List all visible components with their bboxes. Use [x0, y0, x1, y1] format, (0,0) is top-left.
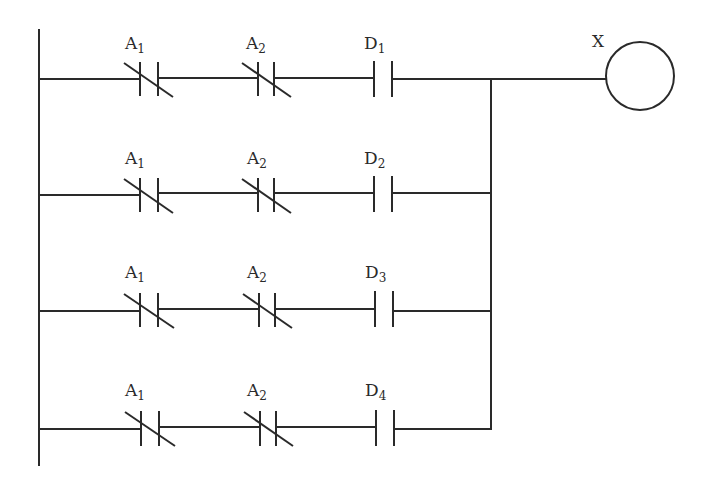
ladder-diagram [0, 0, 710, 486]
contact-label: A1 [125, 150, 145, 167]
contact-label: A2 [247, 150, 267, 167]
contact-label: D3 [365, 264, 386, 281]
rung-2 [39, 176, 491, 213]
rung-3 [39, 291, 491, 328]
rung-4 [39, 410, 491, 446]
contact-label: D1 [364, 35, 385, 52]
contact-label: A1 [125, 382, 145, 399]
coil-label: X [592, 33, 604, 50]
contact-label: A2 [246, 35, 266, 52]
contact-label: A1 [125, 35, 145, 52]
contact-label: D2 [364, 150, 385, 167]
contact-label: D4 [365, 382, 386, 399]
contact-label: A2 [247, 264, 267, 281]
contact-label: A1 [125, 264, 145, 281]
rung-1 [39, 61, 491, 97]
output-coil-icon [606, 42, 674, 110]
contact-label: A2 [247, 382, 267, 399]
